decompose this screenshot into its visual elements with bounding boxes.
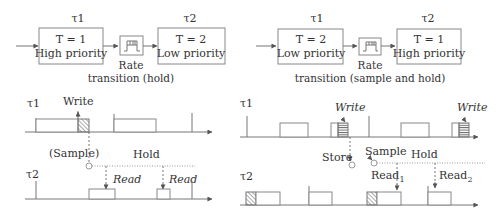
right-block1-priority: Low priority: [277, 47, 346, 60]
sample-label: (Sample): [49, 147, 99, 160]
write-label-1: Write: [335, 101, 366, 114]
rate-transition-block-right: [359, 38, 381, 55]
left-timing-row2-task: τ2: [26, 168, 39, 181]
right-transition-label-1: Rate: [358, 59, 383, 71]
right-block2-priority: High priority: [393, 47, 466, 60]
left-block1-priority: High priority: [35, 47, 108, 60]
write-striped-block: [459, 123, 469, 137]
left-transition-label-2: transition (hold): [88, 72, 174, 84]
left-block2-task: τ2: [183, 12, 196, 25]
sample-point: [86, 163, 92, 169]
right-transition-label-2: transition (sample and hold): [295, 72, 446, 84]
left-block2-priority: Low priority: [157, 47, 226, 60]
hold-label: Hold: [133, 148, 160, 161]
right-block1-period: T = 2: [296, 33, 327, 46]
right-block2-task: τ2: [421, 12, 434, 25]
read-label-1: Read: [112, 173, 141, 186]
left-block2-period: T = 2: [176, 33, 207, 46]
left-block1-period: T = 1: [56, 33, 87, 46]
left-timing-row1-task: τ1: [27, 97, 40, 110]
right-timing-diagram: τ1 Write Write Store Sample Hold τ2 Read: [240, 97, 488, 205]
right-timing-row1-task: τ1: [240, 97, 253, 110]
left-block-diagram: τ1 T = 1 High priority τ2 T = 2 Low prio…: [16, 12, 226, 84]
right-block-diagram: τ1 T = 2 Low priority τ2 T = 1 High prio…: [256, 12, 466, 84]
write-label-2: Write: [457, 101, 488, 114]
left-block1-task: τ1: [71, 12, 84, 25]
read-label-1: Read1: [371, 169, 405, 184]
write-hatched-block: [78, 119, 89, 132]
read-label-2: Read2: [439, 169, 473, 184]
sample-label: Sample: [365, 145, 407, 158]
left-transition-label-1: Rate: [119, 59, 144, 71]
left-timing-diagram: τ1 Write (Sample) Hold τ2 Read Read: [25, 95, 212, 199]
write-label: Write: [63, 95, 94, 108]
hold-label: Hold: [411, 148, 438, 161]
read-label-2: Read: [168, 173, 197, 186]
right-block2-period: T = 1: [414, 33, 445, 46]
store-point: [349, 162, 355, 168]
write-striped-block: [338, 123, 348, 137]
sample-point: [371, 160, 377, 166]
store-label: Store: [322, 151, 352, 164]
rate-transition-diagram: τ1 T = 1 High priority τ2 T = 2 Low prio…: [0, 0, 499, 219]
right-block1-task: τ1: [310, 12, 323, 25]
right-timing-row2-task: τ2: [240, 170, 253, 183]
